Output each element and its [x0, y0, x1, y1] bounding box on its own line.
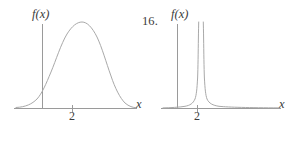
figure-panel-asymptote-curve: 16. f(x) x 2 — [149, 0, 298, 141]
figure-panel-bell-curve: . f(x) x 2 — [0, 0, 149, 141]
asymptote-right-branch-path — [203, 22, 279, 108]
asymptote-left-branch-path — [163, 22, 199, 108]
plot-area-bell-curve — [0, 0, 149, 141]
figure-container: . f(x) x 2 16. f(x) x 2 — [0, 0, 298, 141]
plot-area-asymptote-curve — [149, 0, 298, 141]
bell-curve-path — [16, 22, 136, 108]
